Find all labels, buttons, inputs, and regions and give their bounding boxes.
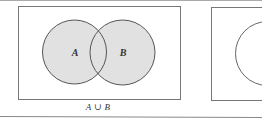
- panel-partial: [212, 8, 263, 101]
- set-b-label: B: [120, 47, 127, 58]
- union-caption: A ∪ B: [60, 102, 136, 112]
- panel-union: [19, 7, 181, 100]
- set-a-label: A: [72, 47, 79, 58]
- bottom-rule: [0, 117, 262, 118]
